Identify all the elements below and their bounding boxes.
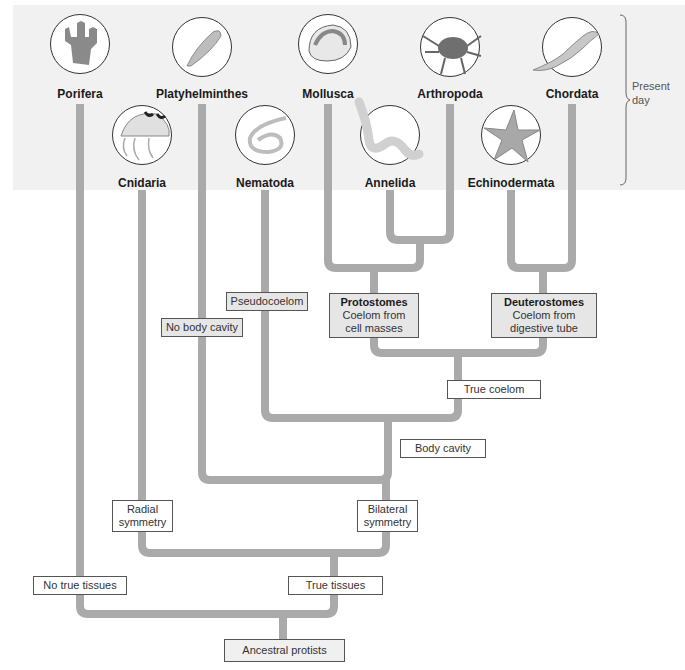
present-day-label: Present day xyxy=(632,79,670,107)
label-true-tissues: True tissues xyxy=(288,576,383,595)
label-no-body-cavity: No body cavity xyxy=(161,318,243,337)
label-true-coelom: True coelom xyxy=(447,380,541,399)
roundworm-icon xyxy=(235,105,295,165)
starfish-icon xyxy=(481,105,541,165)
taxon-echinodermata: Echinodermata xyxy=(451,176,571,190)
crab-icon xyxy=(420,17,480,77)
taxon-arthropoda: Arthropoda xyxy=(390,87,510,101)
lizard-icon xyxy=(542,17,602,77)
present-day-brace xyxy=(618,14,632,186)
taxon-cnidaria: Cnidaria xyxy=(82,176,202,190)
taxon-platyhelminthes: Platyhelminthes xyxy=(142,87,262,101)
taxon-nematoda: Nematoda xyxy=(205,176,325,190)
taxon-porifera: Porifera xyxy=(20,87,140,101)
label-pseudocoelom: Pseudocoelom xyxy=(226,292,308,311)
label-bilateral-symmetry: Bilateral symmetry xyxy=(357,500,418,532)
jellyfish-icon xyxy=(112,105,172,165)
taxon-mollusca: Mollusca xyxy=(268,87,388,101)
segmented-worm-icon xyxy=(360,105,420,165)
label-no-true-tissues: No true tissues xyxy=(33,576,127,595)
taxon-chordata: Chordata xyxy=(512,87,632,101)
taxon-annelida: Annelida xyxy=(330,176,450,190)
label-radial-symmetry: Radial symmetry xyxy=(112,500,173,532)
label-protostomes: Protostomes Coelom from cell masses xyxy=(329,293,419,338)
flatworm-icon xyxy=(172,17,232,77)
label-ancestral-protists: Ancestral protists xyxy=(224,639,345,662)
sponge-icon xyxy=(50,14,110,74)
shell-icon xyxy=(298,14,358,74)
label-body-cavity: Body cavity xyxy=(400,439,486,458)
label-deuterostomes: Deuterostomes Coelom from digestive tube xyxy=(491,293,597,338)
